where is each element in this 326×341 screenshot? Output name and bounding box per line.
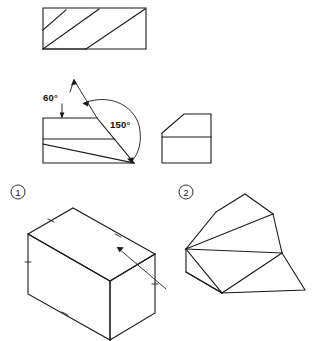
angle-60-vertex-line-b bbox=[74, 80, 97, 118]
iso-wedge-lower-right-face bbox=[222, 253, 305, 293]
figure-isometric-block bbox=[25, 208, 166, 340]
figure-top-trapezoid bbox=[43, 8, 146, 49]
iso-wedge-cap-upper bbox=[216, 194, 273, 214]
item-number-2-text: 2 bbox=[183, 188, 188, 198]
top-trapezoid-diagonal-3 bbox=[86, 9, 145, 49]
iso-wedge-upper-left-face bbox=[186, 212, 273, 249]
item-number-2: 2 bbox=[179, 185, 193, 199]
iso-wedge-lower-left-edge bbox=[186, 272, 222, 293]
angle-150-arc bbox=[84, 99, 140, 162]
iso-block-right-face bbox=[110, 254, 155, 340]
top-trapezoid-diagonal-1 bbox=[43, 10, 66, 30]
iso-wedge-lower-face bbox=[186, 249, 282, 293]
technical-drawing-canvas: 60° 150° 1 2 bbox=[0, 0, 326, 341]
iso-wedge-upper-right-face bbox=[186, 214, 282, 253]
figure-angled-view: 60° 150° bbox=[43, 79, 140, 164]
iso-block-front-face bbox=[28, 234, 110, 340]
chamfered-view-outline bbox=[162, 114, 211, 163]
item-number-1-text: 1 bbox=[15, 188, 20, 198]
iso-wedge-interior-edge bbox=[186, 249, 222, 293]
drawing-sheet: 60° 150° 1 2 bbox=[0, 0, 326, 341]
angle-150-label: 150° bbox=[110, 119, 130, 130]
iso-block-construction-arrowhead bbox=[117, 247, 124, 252]
iso-block-construction-line bbox=[118, 248, 166, 289]
angle-150-arrowhead-start bbox=[82, 100, 89, 106]
top-trapezoid-diagonal-2 bbox=[43, 9, 99, 49]
item-number-1: 1 bbox=[11, 185, 25, 199]
figure-chamfered-view bbox=[162, 114, 211, 163]
figure-isometric-wedge bbox=[186, 194, 305, 293]
angle-60-label: 60° bbox=[43, 92, 58, 103]
